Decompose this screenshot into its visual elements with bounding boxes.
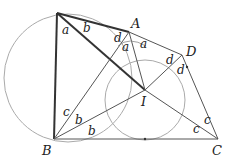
- segment-BA: [54, 32, 129, 139]
- angle-label: b: [83, 21, 91, 35]
- angle-label: d: [114, 31, 122, 45]
- angle-label: c: [63, 105, 70, 119]
- geometry-diagram: A D I B C a b d a a d d c b b c c: [0, 0, 230, 162]
- angle-label: d: [166, 53, 174, 67]
- label-A: A: [130, 16, 140, 31]
- segment-AD: [129, 32, 182, 55]
- angle-label: c: [204, 113, 211, 127]
- label-D: D: [185, 44, 197, 59]
- angle-label: a: [122, 40, 129, 54]
- angle-label: a: [62, 23, 69, 37]
- tangent-point: [186, 66, 188, 68]
- angle-label: c: [193, 122, 200, 136]
- segment-PB: [54, 13, 57, 139]
- label-I: I: [140, 94, 147, 109]
- tangent-point: [144, 138, 146, 140]
- angle-label: b: [75, 113, 83, 127]
- label-B: B: [41, 143, 52, 158]
- label-C: C: [212, 143, 222, 158]
- angle-label: b: [88, 124, 96, 138]
- angle-label: a: [140, 37, 147, 51]
- angle-label: d: [177, 63, 185, 77]
